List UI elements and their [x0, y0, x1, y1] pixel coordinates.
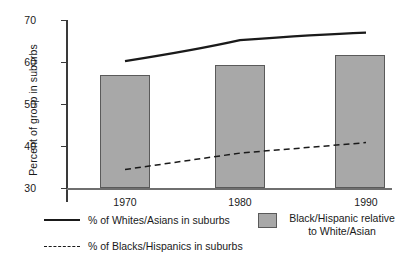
- x-tick-label-1990: 1990: [336, 196, 396, 208]
- y-tick-label-30: 30: [0, 182, 36, 194]
- line-blacks-hispanics: [125, 143, 366, 170]
- legend-label-whites-asians: % of Whites/Asians in suburbs: [88, 214, 230, 227]
- x-tick-label-1970: 1970: [95, 196, 155, 208]
- legend-item-blacks-hispanics: % of Blacks/Hispanics in suburbs: [44, 240, 243, 253]
- legend-item-bar: Black/Hispanic relative to White/Asian: [258, 212, 398, 238]
- chart-legend: % of Whites/Asians in suburbs % of Black…: [0, 210, 410, 268]
- y-tick-label-50: 50: [0, 98, 36, 110]
- line-whites-asians: [125, 33, 366, 62]
- bar-swatch-icon: [258, 213, 277, 228]
- legend-label-blacks-hispanics: % of Blacks/Hispanics in suburbs: [88, 240, 243, 253]
- legend-label-bar: Black/Hispanic relative to White/Asian: [286, 212, 398, 238]
- plot-area: 70 60 50 40 30 1970 1980 1990: [66, 14, 388, 194]
- y-tick-label-70: 70: [0, 14, 36, 26]
- y-tick-label-40: 40: [0, 140, 36, 152]
- chart-figure: Percent of group in suburbs 70 60 50 40 …: [0, 0, 410, 268]
- line-series-overlay: [66, 14, 388, 194]
- legend-item-whites-asians: % of Whites/Asians in suburbs: [44, 214, 230, 227]
- y-axis-title: Percent of group in suburbs: [27, 15, 39, 205]
- dashed-line-icon: [44, 246, 80, 247]
- solid-line-icon: [44, 219, 80, 221]
- y-tick-label-60: 60: [0, 56, 36, 68]
- x-tick-label-1980: 1980: [210, 196, 270, 208]
